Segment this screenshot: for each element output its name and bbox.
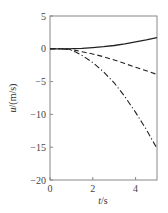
y-tick-label: −15 [30,142,46,153]
series-line-dashed [50,49,157,75]
y-tick-label: −5 [35,76,46,87]
line-chart: 50−5−10−15−20 024 t/s u/(m/s) [0,0,168,213]
y-tick-label: −10 [30,109,46,120]
y-tick-label: 0 [41,43,46,54]
y-tick-label: 5 [41,11,46,22]
series-line-solid [50,38,157,49]
series-line-dash-dot [50,49,157,149]
data-series [50,38,157,149]
y-tick-label: −20 [30,175,46,186]
y-axis-label: u/(m/s) [7,84,19,113]
x-axis-label: t/s [98,195,108,206]
x-tick-label: 4 [133,183,138,194]
x-tick-label: 2 [90,183,95,194]
x-tick-label: 0 [48,183,53,194]
